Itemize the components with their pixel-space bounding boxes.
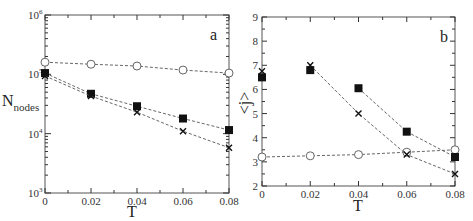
series-circles-marker: [355, 151, 363, 159]
series-circles-marker: [179, 66, 187, 74]
x-tick-label: 0.06: [173, 195, 193, 207]
series-squares-marker: [225, 126, 233, 134]
panel-b-xlabel: T: [353, 197, 363, 214]
figure: 00.020.040.060.08103104105106 a T Nnodes…: [0, 0, 473, 221]
panel-a: 00.020.040.060.08103104105106 a T Nnodes: [2, 8, 239, 220]
x-tick-label: 0.08: [219, 195, 239, 207]
series-circles-marker: [258, 153, 266, 161]
panel-a-ylabel: Nnodes: [2, 92, 39, 113]
x-tick-label: 0.02: [81, 195, 100, 207]
y-tick-label: 104: [28, 127, 43, 140]
y-tick-label: 103: [28, 186, 43, 199]
panel-b-series: [258, 62, 459, 177]
series-crosses-marker: [356, 111, 362, 117]
series-squares-marker: [258, 73, 266, 81]
y-tick-label: 106: [28, 8, 43, 21]
series-circles-marker: [133, 62, 141, 70]
panel-b-ylabel: <j>: [236, 92, 254, 115]
series-circles-marker: [451, 146, 459, 154]
y-tick-label: 2: [253, 180, 259, 192]
x-tick-label: 0: [259, 188, 265, 200]
series-circles-marker: [41, 58, 49, 66]
x-tick-label: 0.08: [445, 188, 465, 200]
panel-a-letter: a: [210, 26, 217, 43]
panel-b-ticks: 00.020.040.060.0823456789: [253, 11, 466, 200]
series-crosses-line: [310, 65, 455, 174]
y-tick-label: 4: [253, 132, 259, 144]
x-tick-label: 0.02: [301, 188, 320, 200]
series-squares-line: [45, 73, 229, 130]
series-crosses-marker: [180, 128, 186, 134]
y-tick-label: 8: [253, 35, 259, 47]
panel-b-frame: [262, 17, 455, 186]
panel-a-xlabel: T: [127, 203, 137, 220]
panel-a-ylabel-main: N: [2, 92, 14, 109]
series-squares-marker: [403, 128, 411, 136]
series-circles-marker: [87, 60, 95, 68]
panel-b-letter: b: [440, 28, 448, 45]
panel-a-series: [41, 58, 233, 150]
panel-b: 00.020.040.060.0823456789 b T <j>: [236, 11, 465, 214]
y-tick-label: 9: [253, 11, 259, 23]
panel-a-ylabel-sub: nodes: [14, 101, 40, 113]
series-circles-marker: [225, 69, 233, 77]
series-squares-marker: [355, 84, 363, 92]
series-circles-marker: [306, 152, 314, 160]
series-squares-line: [359, 88, 456, 157]
y-tick-label: 7: [253, 59, 259, 71]
series-squares-marker: [179, 115, 187, 123]
y-tick-label: 6: [253, 83, 259, 95]
x-tick-label: 0: [42, 195, 48, 207]
y-tick-label: 105: [28, 67, 43, 80]
x-tick-label: 0.06: [397, 188, 417, 200]
series-squares-marker: [451, 153, 459, 161]
y-tick-label: 5: [253, 108, 259, 120]
